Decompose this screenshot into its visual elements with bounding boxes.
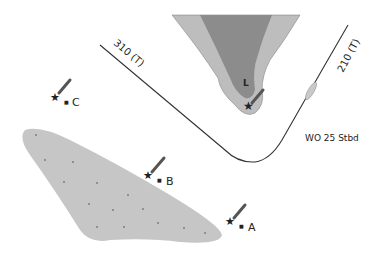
star-icon: ★ [225, 215, 235, 228]
light-A: ★ ■ A [225, 205, 256, 234]
shoal-area [22, 129, 222, 243]
svg-text:■: ■ [64, 99, 69, 105]
pilotage-chart: 310 (T) 210 (T) WO 25 Stbd ★ L ★ ■ C ★ ■… [0, 0, 385, 255]
light-flare-icon [152, 158, 164, 172]
svg-text:■: ■ [239, 223, 244, 229]
light-C: ★ ■ C [50, 80, 80, 109]
star-icon: ★ [50, 91, 60, 104]
star-icon: ★ [243, 99, 254, 113]
course-label-310: 310 (T) [112, 37, 147, 69]
course-label-210: 210 (T) [335, 37, 362, 74]
wheel-over-marker [303, 81, 318, 101]
mark-label-A: A [248, 221, 256, 234]
star-icon: ★ [143, 169, 153, 182]
mark-label-B: B [166, 175, 174, 188]
light-flare-icon [234, 205, 245, 218]
mark-label-C: C [72, 96, 80, 109]
light-flare-icon [59, 80, 70, 93]
mark-label-L: L [243, 78, 249, 88]
wheel-over-label: WO 25 Stbd [305, 133, 359, 143]
svg-text:■: ■ [157, 177, 162, 183]
